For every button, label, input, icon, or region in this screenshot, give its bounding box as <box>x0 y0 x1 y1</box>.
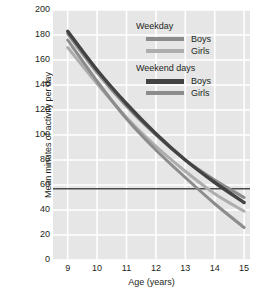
y-tick-label: 100 <box>20 130 50 139</box>
chart-legend: WeekdayBoysGirlsWeekend daysBoysGirls <box>136 20 240 99</box>
x-tick-label: 9 <box>55 263 81 274</box>
legend-item-label: Girls <box>191 45 210 57</box>
legend-item[interactable]: Girls <box>136 87 240 99</box>
x-axis-tick-labels: 9101112131415 <box>53 263 250 277</box>
y-tick-label: 40 <box>20 205 50 214</box>
legend-group-title: Weekday <box>136 20 240 32</box>
legend-swatch-icon <box>146 49 184 53</box>
legend-item-label: Boys <box>191 75 211 87</box>
y-tick-label: 140 <box>20 80 50 89</box>
activity-by-age-chart: Mean minutes of activity per day 2001801… <box>0 0 258 300</box>
y-tick-label: 60 <box>20 180 50 189</box>
y-tick-label: 200 <box>20 5 50 14</box>
legend-item[interactable]: Girls <box>136 45 240 57</box>
legend-item[interactable]: Boys <box>136 33 240 45</box>
x-tick-label: 11 <box>114 263 140 274</box>
legend-swatch-icon <box>146 91 184 95</box>
y-axis-tick-labels: 200180160140120100806040200 <box>20 10 50 260</box>
x-tick-label: 14 <box>202 263 228 274</box>
legend-item-label: Boys <box>191 33 211 45</box>
legend-swatch-icon <box>146 79 184 84</box>
legend-swatch-icon <box>146 37 184 41</box>
x-tick-label: 10 <box>84 263 110 274</box>
legend-group-title: Weekend days <box>136 62 240 74</box>
x-tick-label: 15 <box>231 263 257 274</box>
y-tick-label: 180 <box>20 30 50 39</box>
legend-item-label: Girls <box>191 87 210 99</box>
x-tick-label: 13 <box>172 263 198 274</box>
legend-item[interactable]: Boys <box>136 75 240 87</box>
y-tick-label: 20 <box>20 230 50 239</box>
x-axis-title: Age (years) <box>53 277 250 287</box>
y-tick-label: 120 <box>20 105 50 114</box>
y-tick-label: 160 <box>20 55 50 64</box>
y-tick-label: 0 <box>20 255 50 264</box>
x-tick-label: 12 <box>143 263 169 274</box>
y-tick-label: 80 <box>20 155 50 164</box>
figure-caption <box>4 288 134 296</box>
